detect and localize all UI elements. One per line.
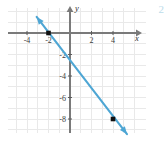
data-point-marker	[46, 31, 51, 36]
x-tick-label: -4	[24, 36, 31, 45]
graph-svg: -4-224-2-4-6-8 x y	[0, 0, 167, 145]
problem-number: 2	[159, 4, 165, 15]
y-tick-label: -8	[59, 115, 66, 124]
data-point-marker	[111, 117, 116, 122]
x-axis-label: x	[134, 33, 139, 43]
y-tick-label: -6	[59, 94, 66, 103]
x-tick-label: -2	[45, 36, 52, 45]
coordinate-plane-figure: -4-224-2-4-6-8 x y 2	[0, 0, 167, 145]
x-tick-label: 2	[90, 36, 94, 45]
y-axis-label: y	[74, 3, 79, 13]
x-tick-label: 4	[111, 36, 115, 45]
y-tick-label: -4	[59, 72, 66, 81]
